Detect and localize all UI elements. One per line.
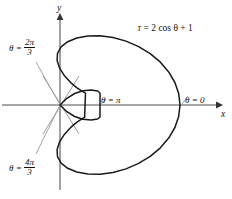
theta-4pi-over-3-prefix: θ = xyxy=(9,163,22,173)
polar-limacon-figure: r = 2 cos θ + 1 θ = 2π 3 θ = 4π 3 θ = π … xyxy=(0,0,232,199)
theta-2pi-over-3-label: θ = 2π 3 xyxy=(9,38,35,57)
y-axis-label: y xyxy=(57,4,61,14)
theta-2pi-over-3-prefix: θ = xyxy=(9,43,22,53)
leader-line-2pi-3 xyxy=(36,62,59,103)
theta-4pi-over-3-fraction: 4π 3 xyxy=(24,158,35,177)
theta-zero-label: θ = 0 xyxy=(185,96,205,105)
y-axis-arrow xyxy=(57,13,64,20)
leader-line-4pi-3 xyxy=(36,107,59,154)
theta-4pi-over-3-label: θ = 4π 3 xyxy=(9,158,35,177)
theta-2pi-over-3-denominator: 3 xyxy=(24,48,35,57)
equation-label: r = 2 cos θ + 1 xyxy=(138,24,193,34)
theta-2pi-over-3-fraction: 2π 3 xyxy=(24,38,35,57)
x-axis-arrow xyxy=(216,102,223,109)
theta-pi-label: θ = π xyxy=(101,96,121,105)
theta-4pi-over-3-denominator: 3 xyxy=(24,168,35,177)
x-axis-label: x xyxy=(221,110,225,120)
